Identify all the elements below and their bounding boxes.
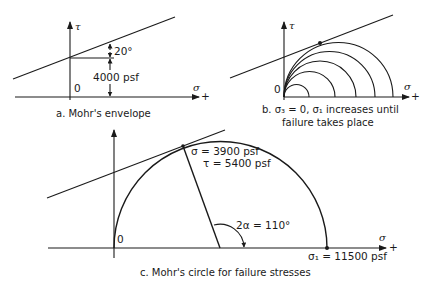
origin-label: 0 [74,82,81,94]
tau-label: τ [289,20,295,31]
mohr-circle-3 [284,61,356,97]
angle-label: 20° [114,45,133,57]
angle-label: 2α = 110° [236,219,290,231]
tangent-point [181,144,185,148]
panel-a: τ σ + 0 20° 4000 psf a. Mohr's envelope [13,17,210,119]
mohr-circle-1 [284,85,309,98]
sigma-label: σ [193,82,201,93]
point-sigma-label: σ = 3900 psf [191,145,259,157]
caption-b-line1: b. σ₃ = 0, σ₁ increases until [262,104,399,115]
point-tau-label: τ = 5400 psf [203,157,271,169]
mohr-envelope-line [230,15,393,78]
panel-b: τ σ + 0 b. σ₃ = 0, σ₁ increases until fa… [230,15,420,128]
caption-b-line2: failure takes place [282,117,374,128]
caption-c: c. Mohr's circle for failure stresses [140,267,311,278]
sigma1-label: σ₁ = 11500 psf [308,250,387,262]
plus-label: + [389,241,398,253]
panel-c: σ + 0 2α = 110° σ = 3900 psf τ = 5400 ps… [47,130,398,278]
origin-label: 0 [117,233,124,245]
caption-a: a. Mohr's envelope [56,108,151,119]
origin-label: 0 [274,83,281,95]
plus-label: + [411,90,420,102]
plus-label: + [201,90,210,102]
intercept-label: 4000 psf [93,71,139,83]
mohr-envelope-line [13,17,175,79]
tau-label: τ [75,21,81,32]
tangent-point [318,41,322,45]
mohr-diagram: τ σ + 0 20° 4000 psf a. Mohr's envelope … [0,0,431,287]
sigma-label: σ [379,232,387,243]
